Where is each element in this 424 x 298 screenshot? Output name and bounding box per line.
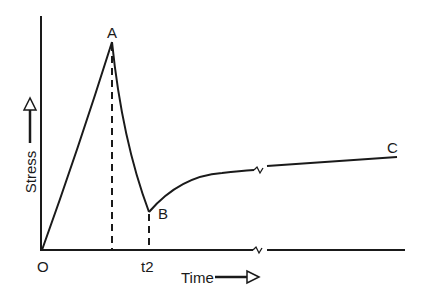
x-axis-label: Time	[181, 270, 214, 285]
stress-time-diagram	[0, 0, 424, 298]
x-tick-label-t2: t2	[141, 259, 154, 274]
curve-break-icon	[254, 167, 263, 173]
point-label-B: B	[158, 206, 168, 221]
point-label-A: A	[107, 25, 117, 40]
y-arrow-head-icon	[24, 98, 36, 110]
point-label-C: C	[387, 140, 398, 155]
x-arrow-head-icon	[247, 271, 259, 283]
y-axis-label: Stress	[23, 151, 38, 194]
curve-longterm-C	[267, 157, 397, 166]
curve-loading-O-A	[42, 42, 112, 250]
x-axis-break-icon	[253, 247, 262, 253]
origin-label: O	[37, 259, 49, 274]
curve-relaxation-A-B	[112, 42, 149, 212]
